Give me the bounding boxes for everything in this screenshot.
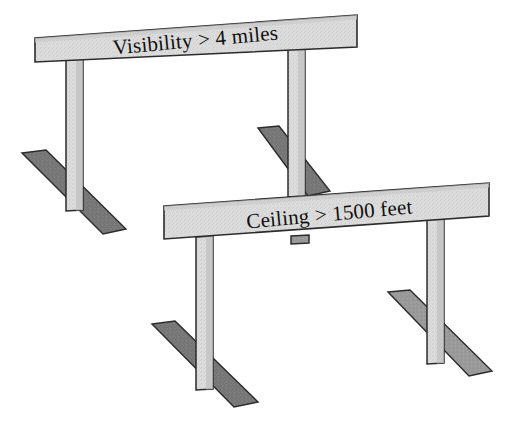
hurdles-diagram: Visibility > 4 miles Ceiling > 1500 feet [0, 0, 518, 447]
hurdles-illustration: Visibility > 4 miles Ceiling > 1500 feet [0, 0, 518, 447]
left-post-shadow [76, 59, 83, 211]
left-post-shadow [206, 236, 213, 390]
right-post-shadow [437, 211, 444, 364]
hurdle-visibility-right-post-stub [291, 235, 309, 244]
right-post-shadow [298, 43, 305, 197]
